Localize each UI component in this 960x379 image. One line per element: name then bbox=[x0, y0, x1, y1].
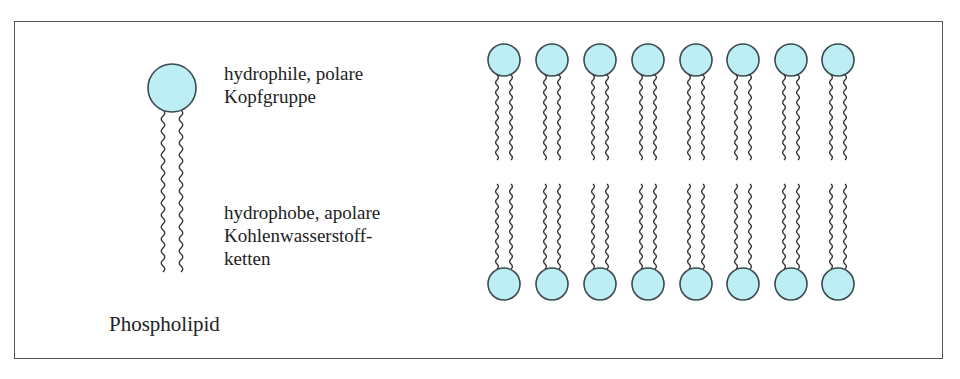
fatty-acid-tail bbox=[783, 184, 786, 269]
fatty-acid-tail bbox=[592, 75, 595, 160]
head-label-line2: Kopfgruppe bbox=[224, 85, 363, 108]
tail-label: hydrophobe, apolare Kohlenwasserstoff- k… bbox=[224, 201, 380, 270]
tail-label-line1: hydrophobe, apolare bbox=[224, 201, 380, 224]
polar-head-group bbox=[775, 44, 807, 76]
polar-head-group bbox=[775, 268, 807, 300]
phospholipid-caption: Phospholipid bbox=[109, 313, 220, 336]
polar-head-group bbox=[536, 44, 568, 76]
polar-head-group bbox=[584, 44, 616, 76]
fatty-acid-tail bbox=[606, 184, 609, 269]
polar-head-group bbox=[727, 44, 759, 76]
fatty-acid-tail bbox=[844, 75, 847, 160]
fatty-acid-tail bbox=[735, 75, 738, 160]
fatty-acid-tail bbox=[688, 75, 691, 160]
fatty-acid-tail bbox=[702, 75, 705, 160]
fatty-acid-tail bbox=[640, 75, 643, 160]
fatty-acid-tail bbox=[510, 75, 513, 160]
fatty-acid-tail bbox=[510, 184, 513, 269]
fatty-acid-tail bbox=[654, 184, 657, 269]
polar-head-group bbox=[727, 268, 759, 300]
polar-head-group bbox=[536, 268, 568, 300]
polar-head-group bbox=[632, 44, 664, 76]
polar-head-group bbox=[148, 64, 196, 112]
polar-head-group bbox=[488, 44, 520, 76]
fatty-acid-tail bbox=[688, 184, 691, 269]
fatty-acid-tail bbox=[606, 75, 609, 160]
fatty-acid-tail bbox=[830, 184, 833, 269]
fatty-acid-tail bbox=[749, 184, 752, 269]
fatty-acid-tail bbox=[830, 75, 833, 160]
fatty-acid-tail bbox=[749, 75, 752, 160]
fatty-acid-tail bbox=[783, 75, 786, 160]
fatty-acid-tail bbox=[640, 184, 643, 269]
fatty-acid-tail bbox=[797, 75, 800, 160]
head-label: hydrophile, polare Kopfgruppe bbox=[224, 62, 363, 108]
head-label-line1: hydrophile, polare bbox=[224, 62, 363, 85]
polar-head-group bbox=[822, 44, 854, 76]
polar-head-group bbox=[680, 268, 712, 300]
fatty-acid-tail bbox=[702, 184, 705, 269]
fatty-acid-tail bbox=[592, 184, 595, 269]
fatty-acid-tail bbox=[558, 75, 561, 160]
fatty-acid-tail bbox=[797, 184, 800, 269]
fatty-acid-tail bbox=[844, 184, 847, 269]
polar-head-group bbox=[584, 268, 616, 300]
fatty-acid-tail bbox=[496, 184, 499, 269]
polar-head-group bbox=[822, 268, 854, 300]
tail-label-line3: ketten bbox=[224, 247, 380, 270]
fatty-acid-tail bbox=[735, 184, 738, 269]
tail-label-line2: Kohlenwasserstoff- bbox=[224, 224, 380, 247]
fatty-acid-tail bbox=[558, 184, 561, 269]
polar-head-group bbox=[632, 268, 664, 300]
polar-head-group bbox=[488, 268, 520, 300]
fatty-acid-tail bbox=[496, 75, 499, 160]
fatty-acid-tail bbox=[654, 75, 657, 160]
fatty-acid-tail bbox=[179, 110, 183, 272]
fatty-acid-tail bbox=[161, 110, 165, 272]
polar-head-group bbox=[680, 44, 712, 76]
fatty-acid-tail bbox=[544, 184, 547, 269]
fatty-acid-tail bbox=[544, 75, 547, 160]
